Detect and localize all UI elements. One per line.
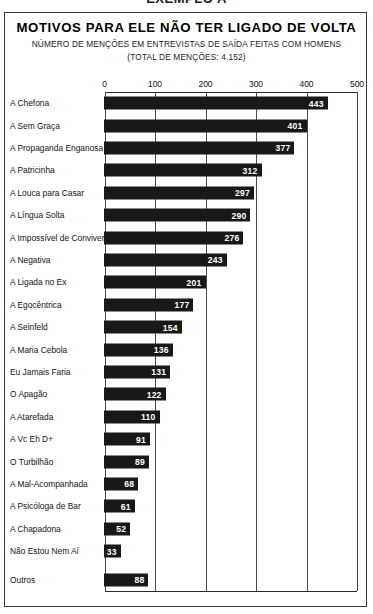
bar: 312: [104, 164, 262, 177]
bar-row: Não Estou Nem Aí33: [5, 540, 368, 562]
bar-row: A Sem Graça401: [5, 114, 368, 136]
bar-value-label: 377: [275, 143, 290, 153]
bar: 136: [104, 343, 173, 356]
bar-category-label: A Ligada no Ex: [10, 277, 102, 287]
bar: 89: [104, 455, 149, 468]
bar: 177: [104, 298, 193, 311]
bar-row: A Propaganda Enganosa377: [5, 137, 368, 159]
bar-value-label: 68: [124, 479, 134, 489]
bar-category-label: A Negativa: [10, 255, 102, 265]
exemplo-caption-strip: EXEMPLO A: [0, 0, 373, 11]
bar-category-label: A Propaganda Enganosa: [10, 143, 102, 153]
bar-row: Eu Jamais Faria131: [5, 361, 368, 383]
bar: 122: [104, 388, 166, 401]
bar-value-label: 154: [163, 322, 178, 332]
chart-subtitle-total: (TOTAL DE MENÇÕES: 4.152): [5, 51, 368, 63]
bar-value-label: 201: [187, 277, 202, 287]
bar: 52: [104, 522, 130, 535]
bar: 61: [104, 500, 135, 513]
bar: 297: [104, 186, 254, 199]
bar-category-label: A Maria Cebola: [10, 345, 102, 355]
bar: 276: [104, 231, 243, 244]
bar-value-label: 122: [147, 389, 162, 399]
bar-value-label: 88: [134, 575, 144, 585]
bar: 131: [104, 365, 170, 378]
x-axis-tick-label: 200: [198, 79, 212, 89]
bar-category-label: Outros: [7, 575, 102, 585]
bar-value-label: 136: [154, 345, 169, 355]
bar-row: A Chefona443: [5, 92, 368, 114]
bar-value-label: 401: [288, 121, 303, 131]
bar-value-label: 443: [309, 98, 324, 108]
bar-value-label: 276: [224, 233, 239, 243]
bar-row: A Mal-Acompanhada68: [5, 473, 368, 495]
bar-category-label: A Louca para Casar: [10, 188, 102, 198]
bar: 377: [104, 141, 294, 154]
bar-row: A Ligada no Ex201: [5, 271, 368, 293]
x-axis-tick-label: 0: [102, 79, 107, 89]
bar-row: A Maria Cebola136: [5, 338, 368, 360]
bar-row: A Vc Eh D+91: [5, 428, 368, 450]
bar-row: A Egocêntrica177: [5, 294, 368, 316]
bar-value-label: 110: [141, 412, 155, 422]
bar-category-label: A Sem Graça: [10, 121, 102, 131]
bar-value-label: 33: [107, 546, 117, 556]
chart-header: MOTIVOS PARA ELE NÃO TER LIGADO DE VOLTA…: [5, 20, 368, 63]
bar-category-label: A Mal-Acompanhada: [10, 479, 102, 489]
bar: 91: [104, 433, 150, 446]
bar-value-label: 243: [208, 255, 223, 265]
bar-row: A Negativa243: [5, 249, 368, 271]
bar-value-label: 61: [121, 501, 131, 511]
bar-value-label: 131: [151, 367, 166, 377]
bar-row: O Turbilhão89: [5, 450, 368, 472]
bar: 154: [104, 321, 182, 334]
x-axis-tick-label: 100: [148, 79, 162, 89]
bar: 201: [104, 276, 206, 289]
bar-value-label: 177: [174, 300, 189, 310]
bar-category-label: A Patricinha: [10, 165, 102, 175]
exemplo-caption: EXEMPLO A: [0, 0, 373, 6]
bar-row: Outros88: [5, 568, 368, 590]
bar-value-label: 89: [135, 457, 145, 467]
bar: 290: [104, 209, 250, 222]
bar-value-label: 312: [243, 165, 258, 175]
bar-row: A Patricinha312: [5, 159, 368, 181]
plot-bottom-line: [105, 591, 358, 592]
bar-category-label: A Seinfeld: [10, 322, 102, 332]
bar-row: A Seinfeld154: [5, 316, 368, 338]
bar: 401: [104, 119, 307, 132]
x-axis-tick-label: 400: [299, 79, 313, 89]
bar: 88: [104, 573, 148, 586]
bar-row: A Louca para Casar297: [5, 182, 368, 204]
bar: 33: [104, 545, 121, 558]
bar-value-label: 91: [136, 434, 146, 444]
chart-title: MOTIVOS PARA ELE NÃO TER LIGADO DE VOLTA: [5, 20, 368, 35]
bar-row: A Atarefada110: [5, 406, 368, 428]
bar-category-label: O Apagão: [10, 389, 102, 399]
bar: 243: [104, 253, 227, 266]
bar: 443: [104, 97, 328, 110]
bar-value-label: 52: [116, 524, 126, 534]
bar: 68: [104, 477, 138, 490]
bar-row: A Chapadona52: [5, 518, 368, 540]
x-axis-tick-label: 300: [249, 79, 263, 89]
bar-category-label: A Vc Eh D+: [10, 434, 102, 444]
bar-category-label: O Turbilhão: [10, 457, 102, 467]
bar-row: O Apagão122: [5, 383, 368, 405]
bar-category-label: Eu Jamais Faria: [10, 367, 102, 377]
bar-category-label: Não Estou Nem Aí: [10, 546, 102, 556]
bar-category-label: A Egocêntrica: [10, 300, 102, 310]
chart-subtitle: NÚMERO DE MENÇÕES EM ENTREVISTAS DE SAÍD…: [5, 38, 368, 50]
bar: 110: [104, 410, 160, 423]
bar-row: A Psicóloga de Bar61: [5, 495, 368, 517]
bar-category-label: A Psicóloga de Bar: [10, 501, 102, 511]
bar-value-label: 290: [231, 210, 246, 220]
bar-row: A Língua Solta290: [5, 204, 368, 226]
bar-value-label: 297: [235, 188, 250, 198]
bar-category-label: A Chapadona: [10, 524, 102, 534]
bar-category-label: A Língua Solta: [10, 210, 102, 220]
plot-area: A Chefona443A Sem Graça401A Propaganda E…: [5, 92, 368, 602]
bar-category-label: A Atarefada: [10, 412, 102, 422]
x-axis-tick-label: 500: [350, 79, 364, 89]
bar-category-label: A Impossível de Conviver: [10, 233, 102, 243]
